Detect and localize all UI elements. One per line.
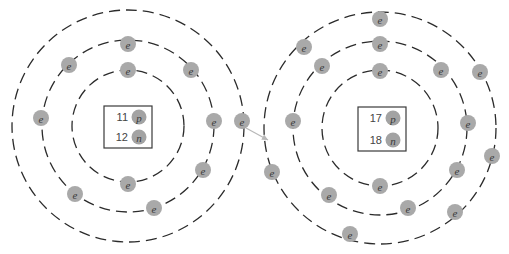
neutrons-count: 12 [116, 131, 128, 143]
electron-icon: e [342, 226, 358, 242]
bohr-diagram: 11p12neeeeeeeeeee17p18neeeeeeeeeeeeeeeee [0, 0, 509, 254]
electron-icon: e [120, 62, 136, 78]
svg-text:e: e [348, 229, 353, 241]
proton-icon: p [386, 111, 401, 126]
electron-icon: e [296, 39, 312, 55]
electron-icon: e [120, 36, 136, 52]
protons-count: 11 [117, 111, 128, 123]
svg-text:e: e [73, 189, 78, 201]
svg-text:e: e [453, 207, 458, 219]
svg-text:e: e [378, 14, 383, 26]
electron-icon: e [484, 148, 500, 164]
electron-icon: e [372, 11, 388, 27]
svg-text:n: n [390, 135, 396, 147]
left-atom: 11p12neeeeeeeeeee [12, 10, 250, 242]
svg-text:e: e [466, 118, 471, 130]
electron-icon: e [61, 57, 77, 73]
electron-icon: e [234, 113, 250, 129]
nucleus: 17p18n [358, 107, 406, 151]
electron-icon: e [372, 178, 388, 194]
electron-icon: e [433, 62, 449, 78]
svg-text:e: e [67, 60, 72, 72]
electron-icon: e [183, 62, 199, 78]
svg-text:e: e [302, 42, 307, 54]
svg-text:e: e [378, 66, 383, 78]
electron-icon: e [314, 58, 330, 74]
neutron-icon: n [386, 133, 401, 148]
svg-text:e: e [126, 65, 131, 77]
electron-icon: e [146, 200, 162, 216]
electron-icon: e [120, 176, 136, 192]
svg-text:e: e [212, 116, 217, 128]
electron-icon: e [285, 113, 301, 129]
electron-icon: e [67, 186, 83, 202]
svg-text:e: e [406, 203, 411, 215]
electron-icon: e [372, 36, 388, 52]
svg-text:e: e [478, 67, 483, 79]
electron-icon: e [372, 63, 388, 79]
neutrons-count: 18 [370, 134, 382, 146]
svg-text:e: e [378, 181, 383, 193]
svg-text:e: e [378, 39, 383, 51]
svg-text:n: n [136, 132, 142, 144]
svg-text:e: e [455, 165, 460, 177]
svg-text:e: e [490, 151, 495, 163]
svg-text:e: e [201, 165, 206, 177]
svg-text:e: e [327, 190, 332, 202]
electron-icon: e [206, 113, 222, 129]
electron-icon: e [447, 204, 463, 220]
electron-icon: e [472, 64, 488, 80]
svg-text:e: e [39, 113, 44, 125]
svg-text:e: e [126, 179, 131, 191]
svg-text:e: e [270, 167, 275, 179]
svg-text:e: e [320, 61, 325, 73]
electron-icon: e [400, 200, 416, 216]
svg-text:e: e [240, 116, 245, 128]
svg-text:e: e [439, 65, 444, 77]
neutron-icon: n [132, 130, 147, 145]
svg-text:p: p [389, 113, 396, 125]
electron-icon: e [195, 162, 211, 178]
svg-text:e: e [152, 203, 157, 215]
electron-icon: e [264, 164, 280, 180]
electron-icon: e [449, 162, 465, 178]
svg-text:e: e [189, 65, 194, 77]
nucleus: 11p12n [104, 106, 152, 148]
electron-icon: e [321, 187, 337, 203]
svg-text:e: e [126, 39, 131, 51]
right-atom: 17p18neeeeeeeeeeeeeeeee [264, 11, 500, 244]
proton-icon: p [132, 110, 147, 125]
protons-count: 17 [370, 112, 382, 124]
svg-text:p: p [135, 112, 142, 124]
electron-icon: e [460, 115, 476, 131]
svg-text:e: e [291, 116, 296, 128]
electron-icon: e [33, 110, 49, 126]
